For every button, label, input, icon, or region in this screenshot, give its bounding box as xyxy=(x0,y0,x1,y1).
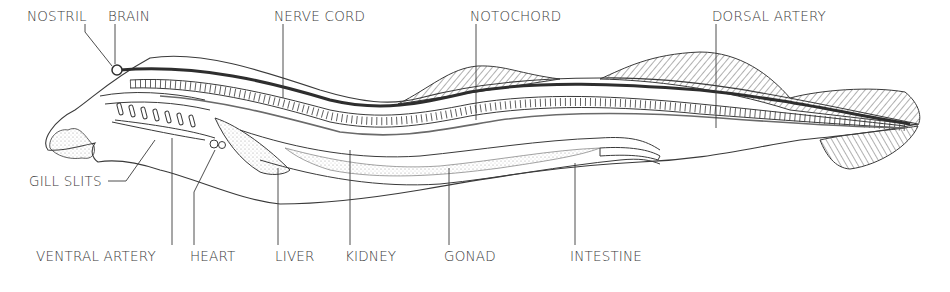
label-gill-slits: GILL SLITS xyxy=(29,173,102,189)
liver xyxy=(215,118,290,174)
label-ventral-artery: VENTRAL ARTERY xyxy=(36,248,156,264)
label-dorsal-artery: DORSAL ARTERY xyxy=(712,8,826,24)
label-kidney: KIDNEY xyxy=(345,248,396,264)
label-notochord: NOTOCHORD xyxy=(470,8,561,24)
label-intestine: INTESTINE xyxy=(570,248,642,264)
label-brain: BRAIN xyxy=(108,8,150,24)
label-gonad: GONAD xyxy=(444,248,496,264)
heart xyxy=(210,140,226,149)
lancelet-anatomy-diagram: NOSTRIL BRAIN NERVE CORD NOTOCHORD DORSA… xyxy=(0,0,950,292)
intestine-end xyxy=(600,147,660,160)
brain xyxy=(112,65,122,75)
label-liver: LIVER xyxy=(275,248,315,264)
label-nerve-cord: NERVE CORD xyxy=(274,8,365,24)
label-heart: HEART xyxy=(190,248,236,264)
oral-hood xyxy=(50,129,95,159)
label-nostril: NOSTRIL xyxy=(27,8,87,24)
